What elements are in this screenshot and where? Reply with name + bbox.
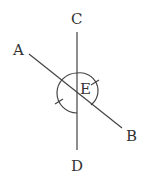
label-e: E xyxy=(80,80,91,98)
label-d: D xyxy=(71,157,83,175)
tick-mark-left xyxy=(55,99,63,104)
label-b: B xyxy=(126,127,137,145)
label-a: A xyxy=(12,41,24,59)
label-c: C xyxy=(71,10,82,28)
line-ab xyxy=(29,54,122,128)
diagram: C A E B D xyxy=(0,0,142,181)
